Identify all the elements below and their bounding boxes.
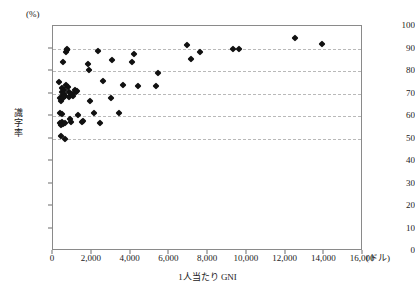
gridline-y [53,116,361,117]
y-tick-label: 90 [369,43,415,52]
data-point [61,135,68,142]
x-tick-mark [323,250,324,254]
x-tick-label: 4,000 [119,254,139,263]
y-tick-label: 100 [369,21,415,30]
y-tick-label: 10 [369,223,415,232]
data-point [96,119,103,126]
x-tick-mark [245,250,246,254]
y-tick-label: 70 [369,88,415,97]
data-point [129,58,136,65]
data-point [235,45,242,52]
y-tick-label: 50 [369,133,415,142]
data-point [86,98,93,105]
scatter-chart-figure: (%) 識字率 0102030405060708090100 02,0004,0… [0,0,415,297]
data-point [319,40,326,47]
data-point [152,82,159,89]
y-axis-title: 識字率 [12,108,24,138]
y-tick-label: 30 [369,178,415,187]
data-point [75,111,82,118]
y-tick-label: 20 [369,201,415,210]
x-tick-mark [168,250,169,254]
data-point [79,117,86,124]
data-point [154,70,161,77]
data-point [187,55,194,62]
x-tick-label: 8,000 [197,254,217,263]
data-point [135,82,142,89]
x-tick-label: 14,000 [311,254,336,263]
x-tick-mark [284,250,285,254]
data-point [85,66,92,73]
data-point [131,51,138,58]
x-tick-label: 6,000 [158,254,178,263]
x-tick-mark [207,250,208,254]
data-point [68,118,75,125]
x-tick-label: 10,000 [233,254,258,263]
x-tick-label: 0 [50,254,55,263]
data-point [108,94,115,101]
x-tick-mark [362,250,363,254]
x-tick-mark [52,250,53,254]
data-point [119,81,126,88]
gridline-y [53,71,361,72]
y-tick-label: 60 [369,111,415,120]
x-axis-title: 1人当たり GNI [0,272,415,282]
data-point [109,56,116,63]
y-tick-label: 40 [369,156,415,165]
y-tick-label: 80 [369,66,415,75]
x-axis-unit-label: (ドル) [366,254,390,263]
x-tick-label: 12,000 [272,254,297,263]
x-tick-mark [90,250,91,254]
x-tick-mark [129,250,130,254]
y-axis-unit-label: (%) [26,9,40,19]
data-point [100,78,107,85]
data-point [292,35,299,42]
gridline-y [53,94,361,95]
plot-area [52,25,362,250]
x-tick-label: 2,000 [81,254,101,263]
data-point [60,58,67,65]
gridline-y [53,139,361,140]
